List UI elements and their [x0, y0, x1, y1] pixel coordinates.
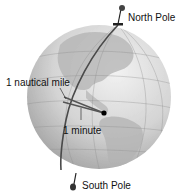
north-pole-pin-icon — [113, 5, 125, 26]
south-pole-pin-icon — [70, 173, 76, 191]
nautical-mile-label: 1 nautical mile — [6, 78, 70, 88]
earth-center-dot — [101, 110, 106, 115]
globe-illustration — [0, 0, 180, 194]
nautical-mile-diagram: North Pole 1 nautical mile 1 minute Sout… — [0, 0, 180, 194]
north-pole-label: North Pole — [128, 13, 175, 23]
south-pole-label: South Pole — [82, 181, 131, 191]
minute-label: 1 minute — [63, 126, 101, 136]
